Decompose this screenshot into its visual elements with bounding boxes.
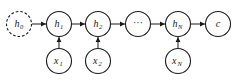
node-ellipsis: ··· [126,12,151,37]
node-h0: h 0 [7,12,32,37]
node-h2-label: h [94,18,99,29]
node-h1-label: h [55,18,60,29]
node-x1: x 1 [47,49,72,74]
node-hN: h N [166,12,191,37]
node-hN-subscript: N [177,23,183,30]
node-xN-subscript: N [177,60,183,67]
node-xN-label: x [171,55,177,66]
node-h2: h 2 [86,12,111,37]
node-c: c [206,12,231,37]
node-h1: h 1 [47,12,72,37]
node-xN: x N [166,49,191,74]
node-x2: x 2 [86,49,111,74]
node-h1-subscript: 1 [60,23,63,30]
node-x2-label: x [92,55,98,66]
rnn-diagram: h 0 h 1 h 2 ··· h N c x 1 x 2 x N [0,0,239,82]
node-x1-subscript: 1 [60,60,63,67]
node-h0-label: h [15,18,20,29]
node-hN-label: h [173,18,178,29]
node-ellipsis-label: ··· [133,17,143,28]
node-x1-label: x [53,55,59,66]
node-c-label: c [216,18,221,29]
